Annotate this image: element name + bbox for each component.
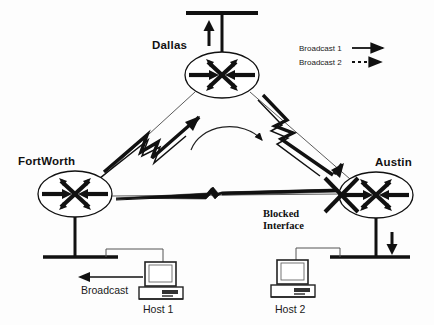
host-label-host2: Host 2 <box>275 303 305 315</box>
router-label-fortworth: FortWorth <box>18 155 75 167</box>
lan-segment-bottom-left <box>43 217 163 262</box>
router-fortworth[interactable] <box>38 171 112 217</box>
blocked-interface-line-2: Interface <box>263 220 304 232</box>
arrow-dallas-lan-up <box>204 20 215 46</box>
lan-segment-top <box>186 13 258 54</box>
legend-label-broadcast-1: Broadcast 1 <box>299 44 342 53</box>
serial-link-fortworth-austin <box>116 187 338 200</box>
blocked-interface-line-1: Blocked <box>263 208 304 220</box>
router-label-austin: Austin <box>375 156 412 168</box>
desktop-computer-icon <box>271 260 315 297</box>
arrow-austin-lan-down <box>387 232 398 255</box>
arrow-host1-broadcast <box>78 272 143 282</box>
router-label-dallas: Dallas <box>152 39 187 51</box>
broadcast-label: Broadcast <box>81 284 128 296</box>
legend-label-broadcast-2: Broadcast 2 <box>299 58 342 67</box>
router-austin[interactable] <box>339 172 413 218</box>
diagram-canvas: Dallas FortWorth Austin Blocked Interfac… <box>0 0 434 325</box>
desktop-computer-host1[interactable] <box>139 262 183 299</box>
desktop-computer-icon <box>139 262 183 299</box>
flow-arrow-fortworth-to-dallas <box>100 116 200 178</box>
router-dallas[interactable] <box>185 52 259 98</box>
desktop-computer-host2[interactable] <box>271 260 315 297</box>
curved-arrow-icon <box>191 127 262 150</box>
host-label-host1: Host 1 <box>143 303 173 315</box>
blocked-interface-label: Blocked Interface <box>263 208 304 232</box>
